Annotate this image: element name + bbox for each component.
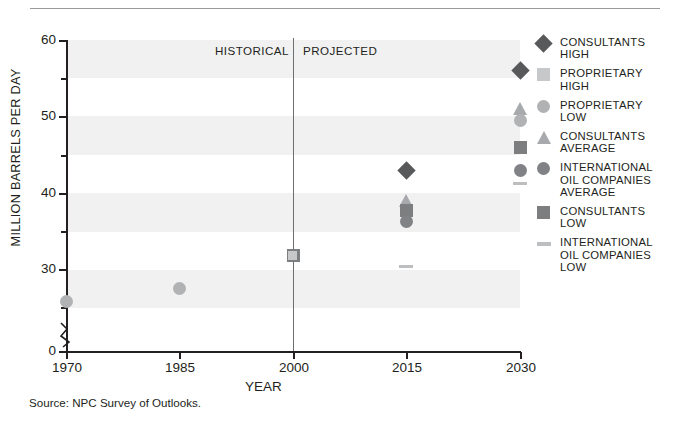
y-axis-title: MILLION BARRELS PER DAY	[8, 38, 23, 278]
data-point-ioc-average-2030	[514, 164, 527, 177]
x-tick-label-2030: 2030	[491, 360, 551, 375]
legend-item-ioc-low[interactable]: INTERNATIONAL OIL COMPANIES LOW	[534, 236, 686, 273]
y-tick-35	[61, 231, 66, 233]
legend-label-line2: AVERAGE	[560, 142, 645, 154]
legend-label-line2: LOW	[560, 217, 645, 229]
data-point-ioc-low-2030	[513, 182, 527, 185]
legend-label-consultants-low: CONSULTANTS LOW	[560, 205, 645, 230]
legend-label-line1: CONSULTANTS	[560, 130, 645, 142]
legend-label-ioc-average: INTERNATIONAL OIL COMPANIES AVERAGE	[560, 161, 653, 198]
data-point-proprietary-low-2030	[514, 114, 527, 127]
legend-label-line1: INTERNATIONAL	[560, 236, 653, 248]
legend-label-line3: LOW	[560, 261, 653, 273]
legend-item-ioc-average[interactable]: INTERNATIONAL OIL COMPANIES AVERAGE	[534, 161, 686, 198]
x-tick-label-1985: 1985	[150, 360, 210, 375]
legend-label-proprietary-low: PROPRIETARY LOW	[560, 99, 643, 124]
x-tick-label-2000: 2000	[264, 360, 324, 375]
legend-item-consultants-average[interactable]: CONSULTANTS AVERAGE	[534, 130, 686, 155]
axis-break-symbol	[58, 322, 76, 348]
legend-label-line2: HIGH	[560, 80, 643, 92]
x-tick-2030	[520, 352, 522, 359]
data-point-ioc-low-2015	[399, 265, 413, 268]
legend-label-line1: CONSULTANTS	[560, 205, 645, 217]
legend-marker-square-dark-icon	[534, 205, 554, 220]
legend-item-proprietary-high[interactable]: PROPRIETARY HIGH	[534, 67, 686, 92]
legend-label-consultants-average: CONSULTANTS AVERAGE	[560, 130, 645, 155]
data-point-proprietary-high-2000	[288, 251, 297, 260]
data-point-proprietary-low-1985	[173, 282, 186, 295]
annotation-projected: PROJECTED	[303, 44, 377, 57]
x-tick-1985	[179, 352, 181, 359]
legend-item-consultants-high[interactable]: CONSULTANTS HIGH	[534, 36, 686, 61]
legend-label-consultants-high: CONSULTANTS HIGH	[560, 36, 645, 61]
y-tick-45	[61, 155, 66, 157]
annotation-historical: HISTORICAL	[215, 44, 289, 57]
legend-label-line2: OIL COMPANIES	[560, 174, 653, 186]
y-tick-label-0: 0	[16, 343, 56, 358]
y-tick-0	[59, 351, 66, 353]
y-tick-55	[61, 78, 66, 80]
data-point-ioc-average-2015	[400, 215, 413, 228]
legend-label-line1: PROPRIETARY	[560, 99, 643, 111]
x-tick-1970	[66, 352, 68, 359]
x-tick-2000	[293, 352, 295, 359]
y-tick-60	[59, 40, 66, 42]
legend-label-line3: AVERAGE	[560, 186, 653, 198]
legend-label-line2: LOW	[560, 111, 643, 123]
x-axis-title: YEAR	[245, 379, 282, 394]
legend-item-consultants-low[interactable]: CONSULTANTS LOW	[534, 205, 686, 230]
legend-marker-square-icon	[534, 67, 554, 82]
x-tick-2015	[406, 352, 408, 359]
legend-item-proprietary-low[interactable]: PROPRIETARY LOW	[534, 99, 686, 124]
x-tick-label-2015: 2015	[377, 360, 437, 375]
y-tick-40	[59, 193, 66, 195]
legend-marker-dash-icon	[534, 236, 554, 251]
legend-label-line2: HIGH	[560, 48, 645, 60]
legend-label-line2: OIL COMPANIES	[560, 249, 653, 261]
x-tick-label-1970: 1970	[37, 360, 97, 375]
legend-marker-triangle-icon	[534, 130, 554, 145]
legend-marker-circle-dark-icon	[534, 161, 554, 176]
historical-projected-divider	[293, 38, 294, 352]
chart-figure: HISTORICAL PROJECTED 60 50 40 30 0 1970 …	[0, 0, 690, 425]
legend-label-line1: PROPRIETARY	[560, 67, 643, 79]
legend-label-ioc-low: INTERNATIONAL OIL COMPANIES LOW	[560, 236, 653, 273]
data-point-consultants-low-2030	[514, 141, 527, 154]
legend-label-proprietary-high: PROPRIETARY HIGH	[560, 67, 643, 92]
legend-marker-circle-icon	[534, 99, 554, 114]
y-tick-30	[59, 269, 66, 271]
legend-marker-diamond-icon	[534, 36, 554, 51]
chart-legend: CONSULTANTS HIGH PROPRIETARY HIGH PROPRI…	[534, 36, 686, 280]
source-note: Source: NPC Survey of Outlooks.	[29, 396, 201, 409]
y-tick-50	[59, 116, 66, 118]
data-point-proprietary-low-1970	[60, 295, 73, 308]
legend-label-line1: CONSULTANTS	[560, 36, 645, 48]
legend-label-line1: INTERNATIONAL	[560, 161, 653, 173]
header-divider-rule	[30, 8, 660, 9]
